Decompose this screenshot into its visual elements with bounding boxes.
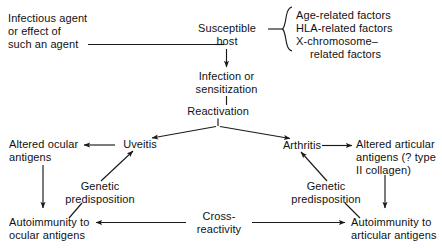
node-age-related-factors: Age-related factors [296, 9, 391, 22]
flow-diagram: Infectious agentor effect ofsuch an agen… [0, 0, 442, 248]
factor-brace-icon [283, 7, 292, 51]
edge-genetic-articular-to-arthritis [301, 152, 327, 181]
node-autoimmunity-ocular: Autoimmunity toocular antigens [9, 216, 89, 242]
node-infectious-agent: Infectious agentor effect ofsuch an agen… [8, 12, 87, 51]
edge-genetic-ocular-to-uveitis [101, 151, 133, 181]
node-susceptible-host: Susceptiblehost [192, 22, 262, 48]
edge-reactivation-to-uveitis [152, 127, 216, 139]
node-uveitis: Uveitis [118, 138, 162, 151]
node-arthritis: Arthritis [278, 139, 326, 152]
node-genetic-predisposition-ocular: Geneticpredisposition [62, 180, 138, 206]
node-hla-related-factors: HLA-related factors [296, 22, 393, 35]
node-altered-ocular-antigens: Altered ocularantigens [9, 138, 78, 164]
node-autoimmunity-articular: Autoimmunity toarticular antigens [351, 216, 437, 242]
edge-reactivation-to-arthritis [220, 127, 290, 139]
node-altered-articular-antigens: Altered articularantigens (? typeII coll… [356, 138, 436, 177]
node-genetic-predisposition-articular: Geneticpredisposition [288, 180, 364, 206]
node-reactivation: Reactivation [178, 105, 258, 118]
node-cross-reactivity: Cross-reactivity [186, 210, 252, 236]
node-infection-sensitization: Infection orsensitization [176, 70, 277, 96]
node-x-chromosome-factors: X-chromosome–related factors [296, 35, 381, 61]
